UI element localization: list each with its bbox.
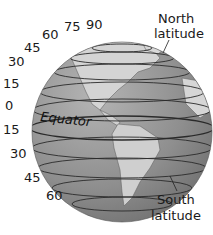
tick-label-60s: 60 xyxy=(46,188,63,203)
tick-label-60n: 60 xyxy=(42,27,59,42)
south-label-line2: latitude xyxy=(151,208,201,223)
tick-label-0: 0 xyxy=(5,98,13,113)
tick-label-45n: 45 xyxy=(24,40,41,55)
tick-label-15s: 15 xyxy=(3,122,20,137)
tick-label-90n: 90 xyxy=(86,17,103,32)
tick-label-75n: 75 xyxy=(64,19,81,34)
north-callout-line xyxy=(163,40,169,53)
tick-label-30s: 30 xyxy=(10,146,27,161)
tick-label-45s: 45 xyxy=(24,170,41,185)
north-label-line1: North xyxy=(158,11,194,26)
south-label-line1: South xyxy=(157,192,195,207)
north-label-line2: latitude xyxy=(154,26,204,41)
tick-label-15n: 15 xyxy=(3,76,20,91)
globe-diagram: 0 15 30 45 60 75 90 15 30 45 60 Equator … xyxy=(0,0,213,235)
tick-label-30n: 30 xyxy=(8,54,25,69)
